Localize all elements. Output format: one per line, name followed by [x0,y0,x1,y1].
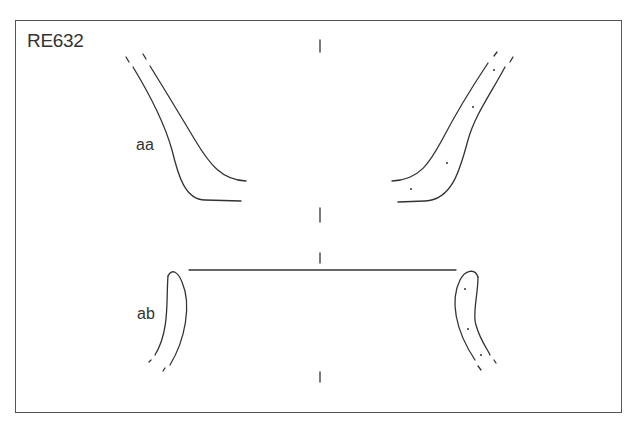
profile-ab-left [149,272,187,371]
profile-aa-left [126,54,246,201]
profile-ab-right [455,271,496,370]
profile-aa-right [392,52,513,202]
profile-drawing [0,0,631,424]
